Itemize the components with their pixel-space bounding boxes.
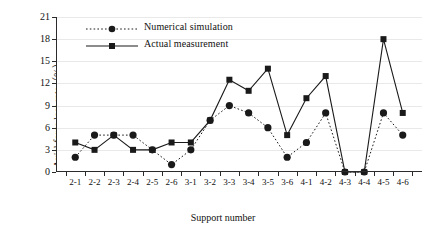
y-tick-label: 12 [40,78,50,88]
x-tick-label: 3-3 [223,178,235,187]
data-point-marker [245,109,252,116]
data-point-marker [284,132,290,138]
y-axis-line [56,17,57,172]
x-tick-mark [393,172,394,176]
x-tick-label: 4-2 [320,178,332,187]
data-point-marker [303,139,310,146]
y-tick-label: 3 [45,145,50,155]
legend-item-actual-measurement: Actual measurement [86,35,233,52]
data-point-marker [361,169,367,175]
data-point-marker [265,66,271,72]
x-tick-mark [123,172,124,176]
data-point-marker [169,139,175,145]
y-tick-mark [52,172,56,173]
y-tick-label: 0 [45,167,50,177]
x-tick-label: 4-6 [397,178,409,187]
x-tick-mark [297,172,298,176]
x-tick-mark [220,172,221,176]
data-point-marker [130,147,136,153]
data-point-marker [246,88,252,94]
x-tick-mark [104,172,105,176]
legend-label: Actual measurement [144,39,228,49]
legend-swatch-dotted-circle-icon [86,21,138,33]
y-tick-label: 18 [40,34,50,44]
data-point-marker [380,36,386,42]
data-point-marker [264,124,271,131]
x-tick-mark [181,172,182,176]
x-tick-label: 2-5 [146,178,158,187]
data-point-marker [72,154,79,161]
data-point-marker [111,132,117,138]
x-tick-mark [162,172,163,176]
x-tick-label: 3-4 [243,178,255,187]
data-point-marker [91,132,98,139]
x-tick-label: 2-6 [166,178,178,187]
x-tick-label: 4-4 [358,178,370,187]
x-tick-label: 3-5 [262,178,274,187]
x-tick-mark [374,172,375,176]
data-point-marker [92,147,98,153]
data-point-marker [207,117,213,123]
x-tick-label: 3-2 [204,178,216,187]
x-tick-mark [66,172,67,176]
series-line [75,106,402,172]
series-line [75,39,402,172]
x-tick-label: 3-6 [281,178,293,187]
x-tick-mark [239,172,240,176]
y-tick-label: 9 [45,101,50,111]
legend-item-numerical-simulation: Numerical simulation [86,18,233,35]
legend-label: Numerical simulation [144,22,233,32]
data-point-marker [322,109,329,116]
data-point-marker [284,154,291,161]
x-tick-mark [316,172,317,176]
data-point-marker [72,139,78,145]
x-tick-mark [258,172,259,176]
x-tick-label: 2-4 [127,178,139,187]
data-point-marker [303,95,309,101]
chart-legend: Numerical simulation Actual measurement [86,18,233,52]
x-tick-mark [278,172,279,176]
data-point-marker [168,161,175,168]
chart-figure: Axial force loss rate（%） 036912151821 2-… [0,0,446,225]
x-axis-line [56,171,422,172]
x-axis-title: Support number [0,212,446,223]
y-tick-label: 6 [45,123,50,133]
y-tick-label: 15 [40,56,50,66]
x-tick-label: 4-1 [300,178,312,187]
legend-swatch-solid-square-icon [86,38,138,50]
data-point-marker [380,109,387,116]
data-point-marker [323,73,329,79]
x-tick-label: 4-3 [339,178,351,187]
data-point-marker [226,102,233,109]
data-point-marker [399,132,406,139]
x-tick-mark [355,172,356,176]
x-tick-label: 2-3 [108,178,120,187]
x-tick-mark [335,172,336,176]
x-tick-mark [85,172,86,176]
data-point-marker [226,77,232,83]
x-tick-mark [200,172,201,176]
data-point-marker [149,147,155,153]
data-point-marker [129,132,136,139]
y-tick-label: 21 [40,12,50,22]
x-tick-mark [412,172,413,176]
x-tick-label: 2-2 [89,178,101,187]
x-tick-mark [143,172,144,176]
x-tick-label: 4-5 [377,178,389,187]
x-tick-label: 2-1 [69,178,81,187]
x-tick-label: 3-1 [185,178,197,187]
data-point-marker [400,110,406,116]
data-point-marker [188,139,194,145]
data-point-marker [187,146,194,153]
data-point-marker [342,169,348,175]
